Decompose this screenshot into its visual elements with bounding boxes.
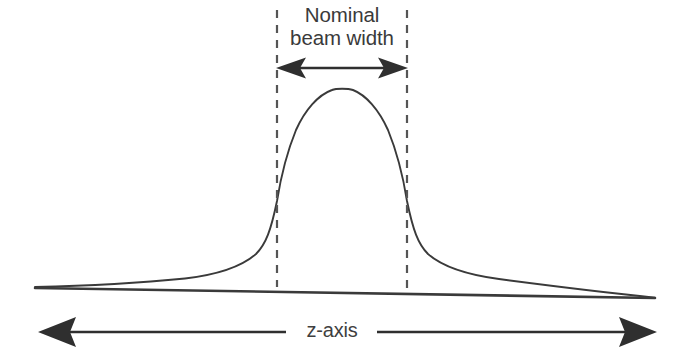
beam-width-label-line2: beam width xyxy=(252,27,432,50)
nominal-beam-width-label: Nominal beam width xyxy=(252,4,432,50)
z-axis-label: z-axis xyxy=(290,319,374,341)
beam-profile-figure: Nominal beam width z-axis xyxy=(0,0,693,355)
beam-profile-curve xyxy=(35,89,655,298)
beam-width-arrow xyxy=(276,58,408,79)
figure-canvas xyxy=(0,0,693,355)
beam-width-label-line1: Nominal xyxy=(252,4,432,27)
baseline-axis xyxy=(35,288,655,298)
